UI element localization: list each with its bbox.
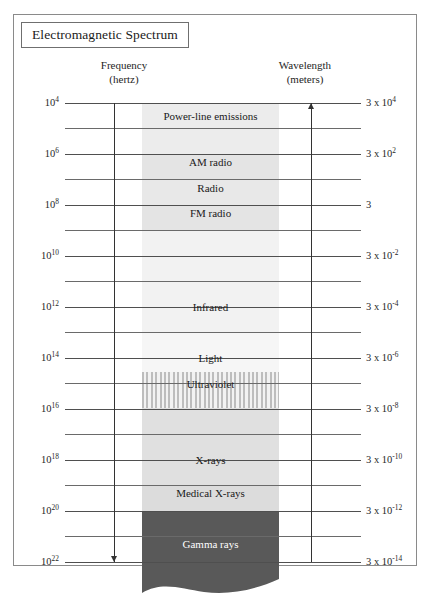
frequency-tick-label: 1010 <box>41 251 59 262</box>
frequency-tick-label: 1020 <box>41 506 59 517</box>
band-label: Power-line emissions <box>102 111 319 122</box>
spectrum-plot: Frequency (hertz) Wavelength (meters) 10… <box>14 15 418 567</box>
wavelength-axis-name: Wavelength <box>246 58 364 72</box>
spectrum-band <box>142 408 279 485</box>
wavelength-axis-header: Wavelength (meters) <box>246 58 364 86</box>
frequency-axis-name: Frequency <box>69 58 179 72</box>
band-label: Medical X-rays <box>102 488 319 499</box>
frequency-tick-label: 1014 <box>41 353 59 364</box>
figure-title-box: Electromagnetic Spectrum <box>21 22 189 48</box>
figure-frame: Electromagnetic Spectrum Frequency (hert… <box>13 14 417 566</box>
gridline-minor <box>65 128 361 129</box>
wavelength-tick-label: 3 <box>366 200 371 211</box>
gridline-major <box>65 256 361 257</box>
frequency-tick-label: 104 <box>45 98 59 109</box>
frequency-tick-label: 108 <box>45 200 59 211</box>
wavelength-tick-label: 3 x 10-14 <box>366 557 402 568</box>
wavelength-tick-label: 3 x 10-6 <box>366 353 398 364</box>
wavelength-tick-label: 3 x 10-4 <box>366 302 398 313</box>
page-title: Electromagnetic Spectrum <box>32 27 178 43</box>
frequency-tick-label: 1022 <box>41 557 59 568</box>
frequency-tick-label: 106 <box>45 149 59 160</box>
frequency-axis-header: Frequency (hertz) <box>69 58 179 86</box>
band-label: Infrared <box>102 302 319 313</box>
wavelength-tick-label: 3 x 10-12 <box>366 506 402 517</box>
gridline-minor <box>65 536 361 537</box>
gridline-minor <box>65 332 361 333</box>
band-label: X-rays <box>102 455 319 466</box>
wavelength-axis-unit: (meters) <box>246 72 364 86</box>
gridline-major <box>65 409 361 410</box>
gridline-minor <box>65 281 361 282</box>
gridline-major <box>65 154 361 155</box>
frequency-tick-label: 1016 <box>41 404 59 415</box>
arrow-head-up-icon <box>308 103 314 109</box>
frequency-tick-label: 1018 <box>41 455 59 466</box>
wavelength-tick-label: 3 x 10-2 <box>366 251 398 262</box>
wavelength-tick-label: 3 x 104 <box>366 98 396 109</box>
gridline-minor <box>65 179 361 180</box>
band-label: Gamma rays <box>102 539 319 550</box>
gridline-major <box>65 562 361 563</box>
wavelength-tick-label: 3 x 10-10 <box>366 455 402 466</box>
gridline-minor <box>65 434 361 435</box>
gridline-major <box>65 205 361 206</box>
band-label: Ultraviolet <box>102 379 319 390</box>
frequency-axis-unit: (hertz) <box>69 72 179 86</box>
gamma-band-wave-edge <box>142 575 279 597</box>
wavelength-tick-label: 3 x 10-8 <box>366 404 398 415</box>
frequency-tick-label: 1012 <box>41 302 59 313</box>
band-label: Radio <box>102 183 319 194</box>
gridline-minor <box>65 230 361 231</box>
wavelength-tick-label: 3 x 102 <box>366 149 396 160</box>
band-label: FM radio <box>102 208 319 219</box>
gridline-minor <box>65 485 361 486</box>
arrow-head-down-icon <box>111 556 117 562</box>
gridline-major <box>65 103 361 104</box>
band-label: AM radio <box>102 157 319 168</box>
gridline-major <box>65 511 361 512</box>
band-label: Light <box>102 353 319 364</box>
